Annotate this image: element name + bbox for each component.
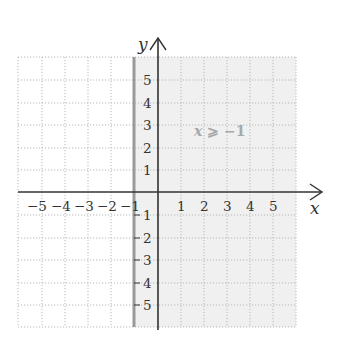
x-tick-label: −2 [97,198,117,214]
y-tick-label: 3 [143,117,152,133]
x-tick-label: −5 [27,198,47,214]
y-tick-labels-positive: 5 4 3 2 1 [143,72,152,178]
x-tick-label: 2 [200,198,209,214]
y-tick-label: 5 [143,72,152,88]
x-tick-label: 4 [246,198,255,214]
x-tick-label: 5 [269,198,278,214]
x-tick-label: −3 [74,198,94,214]
coordinate-plane: x y −5 −4 −3 −2 −1 1 2 3 4 5 5 4 3 2 1 1… [0,0,339,351]
inequality-label: x ⩾ −1 [193,123,246,139]
y-tick-label: 2 [143,230,152,246]
y-tick-label: 3 [143,252,152,268]
y-tick-label: 1 [143,207,152,223]
x-tick-label: 3 [223,198,232,214]
y-tick-label: 2 [143,140,152,156]
y-tick-label: 1 [143,162,152,178]
x-tick-label: 1 [177,198,186,214]
y-axis-label: y [137,34,148,54]
x-tick-labels-negative: −5 −4 −3 −2 −1 [27,198,140,214]
x-tick-label: −4 [51,198,71,214]
y-tick-label: 5 [143,297,152,313]
y-tick-label: 4 [143,275,152,291]
x-tick-label: −1 [120,198,140,214]
x-axis-label: x [310,198,320,218]
y-tick-label: 4 [143,95,152,111]
inequality-relation: ⩾ −1 [202,123,245,139]
y-tick-labels-negative: 1 2 3 4 5 [143,207,152,313]
